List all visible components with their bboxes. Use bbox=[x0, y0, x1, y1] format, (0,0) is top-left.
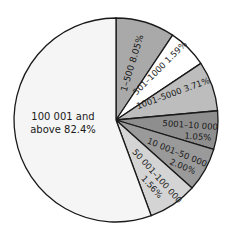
label-100001-line2: above 82.4% bbox=[30, 124, 96, 135]
pie-chart: 1–500 8.05% 501–1000 1.59% 1001–5000 3.7… bbox=[0, 0, 227, 240]
label-100001-line1: 100 001 and bbox=[31, 111, 94, 122]
label-5001-10000-pct: 1.05% bbox=[184, 131, 212, 143]
